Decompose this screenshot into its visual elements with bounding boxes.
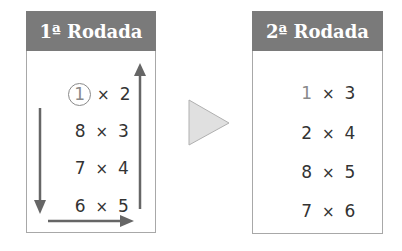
round-2-title: 2ª Rodada	[252, 11, 383, 51]
round-2-row: 7×6	[253, 181, 382, 241]
round-2-box: 2ª Rodada 1×3 2×4 8×5 7×6	[252, 11, 383, 234]
arrow-up-icon	[134, 63, 146, 209]
play-triangle-icon	[189, 100, 229, 145]
arrow-right-icon	[48, 215, 134, 227]
arrow-down-icon	[34, 108, 46, 214]
